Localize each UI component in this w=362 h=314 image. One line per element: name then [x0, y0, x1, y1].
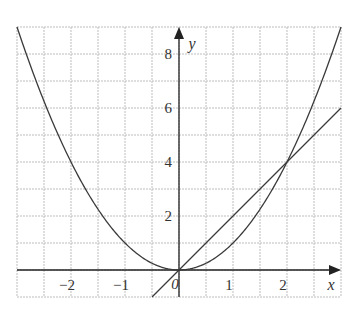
x-tick-label: −1: [113, 277, 129, 293]
x-tick-label: 1: [225, 277, 233, 293]
y-axis-label: y: [186, 35, 196, 53]
origin-label: 0: [171, 276, 179, 292]
y-tick-label: 2: [165, 208, 173, 224]
y-tick-label: 6: [165, 100, 173, 116]
y-tick-label: 8: [165, 46, 173, 62]
tick-labels: −2−11224680xy: [59, 35, 335, 293]
y-axis-arrow-icon: [174, 27, 184, 39]
x-tick-label: 2: [279, 277, 287, 293]
y-tick-label: 4: [165, 154, 173, 170]
graph-plot: −2−11224680xy: [0, 0, 362, 314]
x-axis-label: x: [326, 276, 334, 293]
x-tick-label: −2: [59, 277, 75, 293]
straight-line: [152, 108, 341, 297]
x-axis-arrow-icon: [329, 265, 341, 275]
